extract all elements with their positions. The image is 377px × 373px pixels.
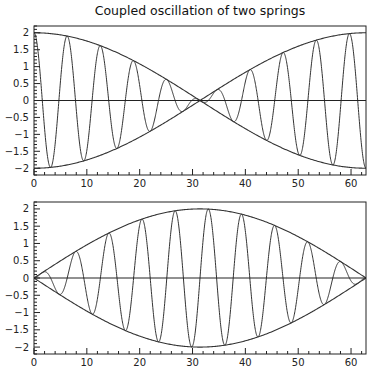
y-tick-label: 1 [23,238,29,249]
chart-title: Coupled oscillation of two springs [95,3,306,18]
y-tick-label: −1 [14,129,29,140]
x-tick-label: 40 [239,178,252,189]
plot-area [34,33,366,168]
x-tick-label: 50 [292,357,305,368]
y-tick-label: 1.5 [13,44,29,55]
y-tick-label: 0 [23,95,29,106]
x-tick-label: 10 [80,178,93,189]
figure: Coupled oscillation of two springs 01020… [0,0,377,373]
x-axis: 0102030405060 [31,169,362,189]
x-tick-label: 30 [186,178,199,189]
x-tick-label: 50 [292,178,305,189]
plot-area [34,209,366,347]
y-axis: −2−1.5−1−0.500.511.52 [5,202,40,354]
y-tick-label: 2 [23,203,29,214]
x-tick-label: 20 [133,357,146,368]
top-panel-oscillation: 0102030405060−2−1.5−1−0.500.511.52 [5,26,366,189]
y-axis: −2−1.5−1−0.500.511.52 [5,26,40,175]
bottom-panel-oscillation: 0102030405060−2−1.5−1−0.500.511.52 [5,202,366,368]
x-tick-label: 40 [239,357,252,368]
y-tick-label: −1.5 [5,146,29,157]
x-tick-label: 60 [345,357,358,368]
y-tick-label: 0.5 [13,78,29,89]
y-tick-label: −1.5 [5,324,29,335]
x-tick-label: 10 [80,357,93,368]
y-tick-label: −2 [14,163,29,174]
lower-envelope-line [34,278,366,347]
y-tick-label: −2 [14,342,29,353]
x-axis: 0102030405060 [31,348,362,368]
x-tick-label: 0 [31,178,37,189]
y-tick-label: 2 [23,27,29,38]
y-tick-label: 0.5 [13,255,29,266]
y-tick-label: 1.5 [13,221,29,232]
upper-envelope-line [34,209,366,278]
y-tick-label: 1 [23,61,29,72]
x-tick-label: 30 [186,357,199,368]
x-tick-label: 20 [133,178,146,189]
x-tick-label: 60 [345,178,358,189]
y-tick-label: −0.5 [5,112,29,123]
y-tick-label: −0.5 [5,290,29,301]
x-tick-label: 0 [31,357,37,368]
y-tick-label: 0 [23,273,29,284]
y-tick-label: −1 [14,307,29,318]
